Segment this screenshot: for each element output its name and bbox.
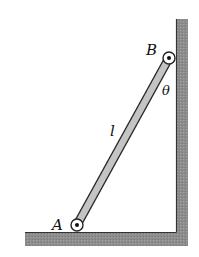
label-angle-theta: θ (162, 83, 170, 98)
label-length: l (110, 122, 115, 140)
vertical-wall (176, 19, 188, 246)
label-point-a: A (50, 216, 63, 234)
pin-a-icon (71, 219, 83, 231)
label-point-b: B (145, 41, 157, 59)
ladder-diagram: B A l θ (0, 0, 199, 257)
horizontal-floor (25, 232, 188, 246)
pin-b-icon (163, 52, 175, 64)
bar-AB (77, 58, 169, 225)
